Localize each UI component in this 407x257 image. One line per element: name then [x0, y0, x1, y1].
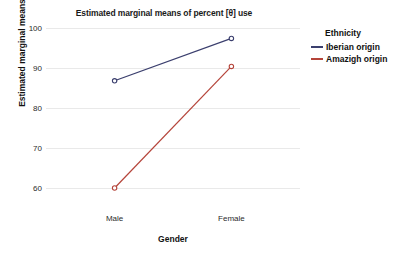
legend-item-iberian-origin[interactable]: Iberian origin	[311, 41, 405, 52]
y-tick-label: 90	[12, 64, 42, 73]
legend: Ethnicity Iberian origin Amazigh origin	[311, 28, 405, 65]
plot-area	[46, 28, 300, 208]
x-tick-label: Male	[106, 214, 123, 223]
data-series-layer	[46, 28, 300, 208]
data-point-marker[interactable]	[112, 79, 116, 83]
y-tick-label: 80	[12, 104, 42, 113]
y-tick-label: 100	[12, 24, 42, 33]
legend-item-label: Amazigh origin	[326, 54, 387, 64]
legend-item-label: Iberian origin	[326, 42, 380, 52]
y-tick-label: 60	[12, 184, 42, 193]
x-axis-title: Gender	[46, 234, 300, 244]
series-line	[115, 66, 232, 188]
x-axis-ticks: Male Female	[46, 214, 300, 228]
chart-page: Estimated marginal means of percent [θ] …	[0, 0, 407, 257]
legend-title: Ethnicity	[325, 28, 405, 38]
legend-item-amazigh-origin[interactable]: Amazigh origin	[311, 53, 405, 64]
x-tick-label: Female	[218, 214, 245, 223]
legend-color-swatch	[311, 46, 323, 48]
data-point-marker[interactable]	[229, 36, 233, 40]
data-point-marker[interactable]	[229, 64, 233, 68]
series-line	[115, 38, 232, 80]
y-tick-label: 70	[12, 144, 42, 153]
data-point-marker[interactable]	[112, 186, 116, 190]
legend-color-swatch	[311, 58, 323, 60]
